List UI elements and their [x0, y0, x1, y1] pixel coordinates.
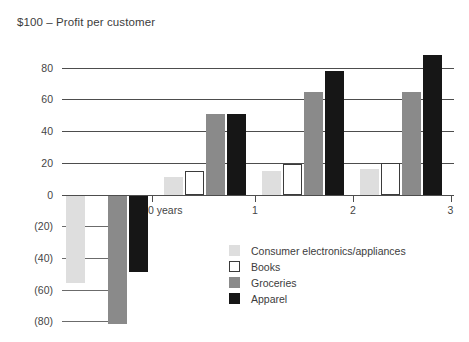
zero-axis-line: [62, 195, 454, 196]
legend-swatch: [229, 245, 240, 256]
x-tick: [152, 195, 153, 202]
gridline: 60: [62, 99, 454, 100]
legend-item: Consumer electronics/appliances: [229, 243, 406, 258]
x-tick: [353, 195, 354, 202]
bar: [129, 195, 148, 273]
x-tick-label: 2: [350, 204, 356, 216]
x-tick: [451, 195, 452, 202]
chart-legend: Consumer electronics/appliancesBooksGroc…: [229, 243, 406, 307]
bar: [402, 92, 421, 195]
y-tick-label: (20): [34, 220, 53, 232]
legend-label: Apparel: [251, 293, 287, 305]
y-tick-label: 60: [41, 93, 53, 105]
x-tick-label: 3: [447, 204, 453, 216]
bar: [108, 195, 127, 325]
gridline: (80): [62, 321, 110, 322]
gridline: (60): [62, 290, 110, 291]
bar: [66, 195, 85, 284]
legend-label: Groceries: [251, 277, 297, 289]
bar: [206, 114, 225, 195]
y-tick-label: (80): [34, 315, 53, 327]
legend-label: Books: [251, 261, 280, 273]
bar: [283, 164, 302, 194]
legend-item: Groceries: [229, 275, 406, 290]
legend-swatch: [229, 277, 240, 288]
gridline: 40: [62, 131, 454, 132]
y-tick-label: 40: [41, 125, 53, 137]
bar: [381, 163, 400, 195]
legend-item: Books: [229, 259, 406, 274]
x-tick: [255, 195, 256, 202]
bar: [304, 92, 323, 195]
profit-per-customer-chart: $100 – Profit per customer 806040200(20)…: [0, 0, 469, 342]
bar: [423, 55, 442, 194]
bar: [164, 177, 183, 194]
y-tick-label: (40): [34, 252, 53, 264]
bar: [227, 114, 246, 195]
legend-swatch: [229, 293, 240, 304]
legend-item: Apparel: [229, 291, 406, 306]
chart-title: $100 – Profit per customer: [17, 16, 155, 28]
y-tick-label: 80: [41, 62, 53, 74]
legend-swatch: [229, 261, 240, 272]
y-tick-label: 20: [41, 157, 53, 169]
legend-label: Consumer electronics/appliances: [251, 245, 406, 257]
x-tick-label: 1: [252, 204, 258, 216]
bar: [325, 71, 344, 195]
bar: [185, 171, 204, 195]
x-tick-label: 0 years: [148, 204, 182, 216]
bar: [262, 171, 281, 195]
y-tick-label: (60): [34, 284, 53, 296]
y-tick-label: 0: [47, 189, 53, 201]
gridline: 80: [62, 68, 454, 69]
bar: [360, 169, 379, 194]
